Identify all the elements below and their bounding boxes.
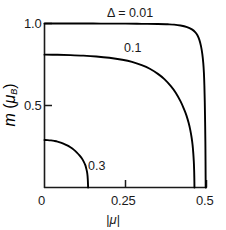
- curve-delta-0.3: [45, 140, 89, 188]
- y-axis-title: m (μB): [1, 69, 19, 141]
- y-axis-title-symbol: m: [1, 113, 18, 126]
- y-axis-title-subscript: B: [9, 89, 19, 95]
- annotation-delta-0.01: Δ = 0.01: [107, 6, 153, 20]
- annotation-delta-0.3: 0.3: [88, 159, 105, 173]
- curve-delta-0.1: [45, 55, 195, 188]
- y-axis-title-mu: μ: [1, 95, 18, 104]
- y-axis-title-paren-close: ): [1, 83, 18, 88]
- chart-figure: 1.0 0.5 0 0.25 0.5 Δ = 0.01 0.1 0.3 m (μ…: [0, 0, 226, 230]
- xtick-label-0: 0: [38, 193, 45, 208]
- annotation-delta-0.1: 0.1: [124, 41, 141, 55]
- y-axis-title-paren-open: (: [1, 104, 18, 114]
- xtick-label-0.25: 0.25: [111, 193, 136, 208]
- ytick-label-1.0: 1.0: [24, 16, 41, 31]
- x-axis-title: |μ|: [106, 212, 120, 227]
- xtick-label-0.5: 0.5: [196, 193, 213, 208]
- ytick-label-0.5: 0.5: [24, 98, 41, 113]
